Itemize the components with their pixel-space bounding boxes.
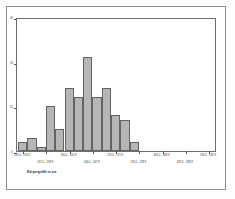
x-axis-labels: 152.0 - 154.9157.0 - 159.9160.0 - 162.91… bbox=[16, 154, 216, 170]
histogram-bar bbox=[27, 138, 36, 151]
histogram-bar bbox=[120, 120, 129, 151]
x-axis-tick-label: 160.0 - 162.9 bbox=[61, 155, 77, 158]
y-axis-tick-label: 0 bbox=[12, 152, 13, 155]
y-axis-tick-label: 20 bbox=[10, 62, 13, 65]
x-axis-tick-label: 170.0 - 172.9 bbox=[107, 155, 123, 158]
y-axis-tick bbox=[14, 19, 17, 20]
histogram-bar bbox=[18, 142, 27, 151]
x-axis-tick-label: 176.0 - 178.9 bbox=[130, 162, 146, 165]
x-axis-tick-label: 157.0 - 159.9 bbox=[37, 162, 53, 165]
histogram-bar bbox=[65, 88, 74, 151]
histogram-bar bbox=[92, 97, 101, 151]
histogram-page: 0102030 152.0 - 154.9157.0 - 159.9160.0 … bbox=[0, 0, 235, 199]
histogram-bar bbox=[111, 115, 120, 151]
histogram-bar bbox=[83, 57, 92, 151]
histogram-bar bbox=[37, 147, 46, 151]
plot-area: 0102030 bbox=[17, 19, 215, 151]
histogram-bar bbox=[102, 88, 111, 151]
y-axis-tick-label: 30 bbox=[10, 18, 13, 21]
x-axis-tick-label: 164.0 - 167.9 bbox=[84, 162, 100, 165]
histogram-bar bbox=[74, 97, 83, 151]
x-axis-tick-label: 181.0 - 183.9 bbox=[154, 155, 170, 158]
histogram-bar bbox=[46, 106, 55, 151]
x-axis-tick-label: 190.0 - 192.9 bbox=[200, 155, 216, 158]
histogram-bar bbox=[55, 129, 64, 151]
x-axis-tick-label: 187.0 - 189.9 bbox=[177, 162, 193, 165]
axis-caption: Körpergröße in cm bbox=[27, 170, 56, 174]
y-axis-tick bbox=[14, 108, 17, 109]
y-axis-tick-label: 10 bbox=[10, 107, 13, 110]
y-axis-tick bbox=[14, 64, 17, 65]
histogram-bar bbox=[130, 142, 139, 151]
plot-frame: 0102030 bbox=[16, 18, 216, 152]
x-axis-tick-label: 152.0 - 154.9 bbox=[14, 155, 30, 158]
